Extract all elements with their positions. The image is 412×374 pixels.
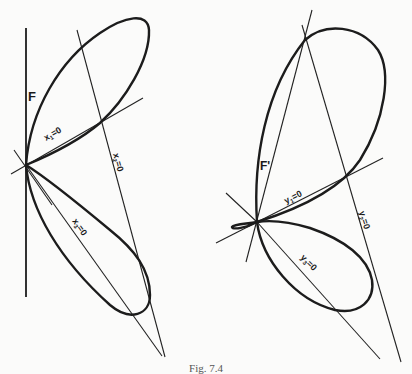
label-x3: x3=0 [70,216,90,238]
label-y2: y2=0 [356,210,372,231]
right-figure: F' y1=0 y2=0 y3=0 [216,10,401,362]
label-y3: y3=0 [298,252,319,273]
line-y3 [257,222,380,359]
line-x3 [26,165,162,356]
svg-text:y2=0: y2=0 [356,210,372,231]
line-y1 [216,158,383,243]
label-x1: x1=0 [42,125,64,144]
svg-text:x1=0: x1=0 [42,125,64,144]
right-node-line [226,193,257,222]
left-figure: F x1=0 x2=0 x3=0 [11,18,165,357]
right-steep-line [246,10,312,262]
curve-label-F-prime: F' [260,159,270,173]
svg-text:x3=0: x3=0 [70,216,90,238]
curve-label-F: F [28,89,36,104]
left-upper-lobe [26,18,149,165]
label-x2: x2=0 [110,152,125,173]
line-x2 [77,30,165,357]
figure-caption: Fig. 7.4 [0,362,412,374]
left-lower-lobe [26,165,150,315]
right-upper-lobe [256,29,385,222]
svg-text:y3=0: y3=0 [298,252,319,273]
svg-text:x2=0: x2=0 [110,152,125,173]
right-small-loop [232,222,257,228]
